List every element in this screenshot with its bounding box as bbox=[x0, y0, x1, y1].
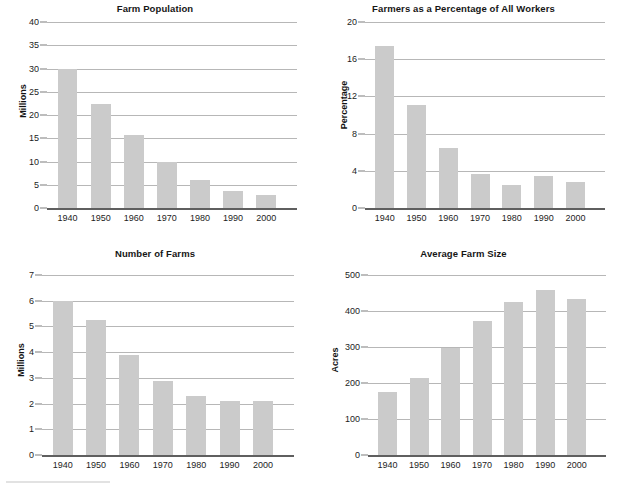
gridline bbox=[365, 59, 605, 60]
y-tick-mark bbox=[361, 347, 368, 348]
x-tick-label: 1970 bbox=[472, 460, 492, 470]
y-tick-mark bbox=[35, 377, 42, 378]
x-tick-label: 1940 bbox=[53, 460, 73, 470]
y-tick-mark bbox=[40, 138, 47, 139]
bar-average-farm-size-1980 bbox=[504, 302, 523, 455]
y-tick-mark bbox=[40, 91, 47, 92]
bar-farm-population-2000 bbox=[256, 195, 276, 208]
y-tick-mark bbox=[361, 419, 368, 420]
y-tick-mark bbox=[358, 133, 365, 134]
chart-panel-farmers-percentage: Farmers as a Percentage of All WorkersPe… bbox=[310, 0, 617, 245]
x-tick-label: 1960 bbox=[124, 213, 144, 223]
x-tick-label: 1940 bbox=[58, 213, 78, 223]
x-tick-label: 1960 bbox=[119, 460, 139, 470]
y-tick-label: 0 bbox=[355, 450, 360, 460]
y-tick-mark bbox=[35, 455, 42, 456]
x-tick-label: 1990 bbox=[223, 213, 243, 223]
y-tick-label: 3 bbox=[29, 373, 34, 383]
bar-average-farm-size-1940 bbox=[378, 392, 397, 455]
y-tick-mark bbox=[40, 161, 47, 162]
gridline bbox=[365, 171, 605, 172]
chart-panel-number-of-farms: Number of FarmsMillions01234567194019501… bbox=[0, 245, 310, 490]
gridline bbox=[42, 378, 294, 379]
x-tick-label: 2000 bbox=[253, 460, 273, 470]
bar-number-of-farms-1990 bbox=[220, 401, 240, 455]
y-tick-mark bbox=[40, 68, 47, 69]
y-tick-label: 500 bbox=[345, 270, 360, 280]
y-tick-mark bbox=[35, 429, 42, 430]
y-tick-label: 4 bbox=[352, 166, 357, 176]
x-tick-label: 1990 bbox=[534, 213, 554, 223]
y-tick-label: 200 bbox=[345, 378, 360, 388]
gridline bbox=[42, 275, 294, 276]
x-tick-label: 1950 bbox=[406, 213, 426, 223]
y-tick-label: 5 bbox=[34, 180, 39, 190]
chart-panel-average-farm-size: Average Farm SizeAcres010020030040050019… bbox=[310, 245, 617, 490]
gridline bbox=[47, 115, 297, 116]
y-tick-label: 12 bbox=[347, 91, 357, 101]
gridline bbox=[365, 96, 605, 97]
x-axis-line bbox=[365, 208, 605, 210]
y-tick-label: 16 bbox=[347, 54, 357, 64]
y-tick-mark bbox=[35, 326, 42, 327]
gridline bbox=[47, 22, 297, 23]
bar-farm-population-1970 bbox=[157, 162, 177, 208]
x-tick-label: 1950 bbox=[86, 460, 106, 470]
y-tick-label: 4 bbox=[29, 347, 34, 357]
y-tick-label: 0 bbox=[34, 203, 39, 213]
bar-number-of-farms-2000 bbox=[253, 401, 273, 455]
plot-area-number-of-farms: 012345671940195019601970198019902000 bbox=[42, 275, 294, 455]
chart-title-average-farm-size: Average Farm Size bbox=[310, 248, 617, 259]
plot-area-farmers-percentage: 0481216201940195019601970198019902000 bbox=[365, 22, 605, 208]
gridline bbox=[42, 352, 294, 353]
bar-farmers-percentage-1950 bbox=[407, 105, 426, 208]
bar-number-of-farms-1970 bbox=[153, 381, 173, 455]
x-tick-label: 2000 bbox=[567, 460, 587, 470]
y-tick-label: 8 bbox=[352, 129, 357, 139]
y-tick-mark bbox=[35, 275, 42, 276]
bar-average-farm-size-1970 bbox=[473, 321, 492, 455]
y-tick-mark bbox=[361, 383, 368, 384]
y-tick-label: 7 bbox=[29, 270, 34, 280]
y-axis-title-farm-population: Millions bbox=[18, 84, 28, 118]
y-tick-label: 15 bbox=[29, 133, 39, 143]
chart-panel-farm-population: Farm PopulationMillions05101520253035401… bbox=[0, 0, 310, 245]
x-tick-label: 1980 bbox=[502, 213, 522, 223]
y-tick-label: 10 bbox=[29, 157, 39, 167]
y-tick-label: 6 bbox=[29, 296, 34, 306]
x-tick-label: 1980 bbox=[190, 213, 210, 223]
y-tick-label: 2 bbox=[29, 399, 34, 409]
y-tick-label: 25 bbox=[29, 87, 39, 97]
x-axis-line bbox=[368, 455, 606, 457]
y-axis-title-average-farm-size: Acres bbox=[330, 347, 340, 372]
plot-area-average-farm-size: 0100200300400500194019501960197019801990… bbox=[368, 275, 606, 455]
bar-farmers-percentage-1980 bbox=[502, 185, 521, 208]
x-tick-label: 1990 bbox=[535, 460, 555, 470]
bar-average-farm-size-1950 bbox=[410, 378, 429, 455]
x-axis-line bbox=[42, 455, 294, 457]
y-tick-label: 400 bbox=[345, 306, 360, 316]
gridline bbox=[47, 45, 297, 46]
x-tick-label: 1990 bbox=[220, 460, 240, 470]
y-tick-mark bbox=[40, 184, 47, 185]
y-tick-label: 0 bbox=[352, 203, 357, 213]
gridline bbox=[42, 301, 294, 302]
bar-farmers-percentage-1940 bbox=[375, 46, 394, 208]
y-tick-label: 20 bbox=[29, 110, 39, 120]
gridline bbox=[47, 138, 297, 139]
chart-title-farm-population: Farm Population bbox=[0, 3, 310, 14]
y-tick-label: 5 bbox=[29, 321, 34, 331]
bar-average-farm-size-1960 bbox=[441, 348, 460, 455]
y-tick-label: 0 bbox=[29, 450, 34, 460]
chart-title-number-of-farms: Number of Farms bbox=[0, 248, 310, 259]
bar-farmers-percentage-1970 bbox=[471, 174, 490, 208]
gridline bbox=[368, 275, 606, 276]
x-tick-label: 1950 bbox=[409, 460, 429, 470]
y-tick-mark bbox=[358, 22, 365, 23]
y-tick-mark bbox=[358, 170, 365, 171]
bar-farm-population-1990 bbox=[223, 191, 243, 208]
bar-average-farm-size-1990 bbox=[536, 290, 555, 455]
gridline bbox=[47, 92, 297, 93]
bar-number-of-farms-1980 bbox=[186, 396, 206, 455]
x-tick-label: 1940 bbox=[375, 213, 395, 223]
